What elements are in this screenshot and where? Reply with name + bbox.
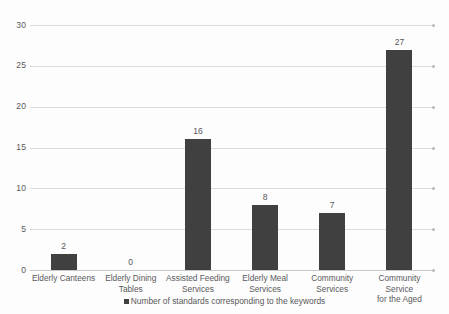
bar-value-label: 8	[232, 193, 299, 202]
bar-chart: 051015202530 20168727 Elderly CanteensEl…	[0, 0, 449, 314]
bar[interactable]	[319, 213, 345, 270]
bar-slot: 16	[164, 25, 231, 270]
x-axis-category-label: Elderly MealServices	[232, 273, 299, 294]
x-axis-category-label-line: Elderly Canteens	[30, 273, 97, 284]
y-axis-tick-label: 20	[2, 102, 26, 111]
y-axis-tick-label: 25	[2, 61, 26, 70]
y-axis-tick: 15	[0, 143, 26, 153]
y-axis-tick-label: 5	[2, 225, 26, 234]
bar[interactable]	[252, 205, 278, 270]
bars-group: 20168727	[30, 25, 433, 270]
y-axis-tick-label: 10	[2, 184, 26, 193]
y-axis-tick: 20	[0, 102, 26, 112]
legend-swatch-icon	[124, 299, 129, 304]
y-axis-tick: 25	[0, 61, 26, 71]
x-axis-category-label: Elderly DiningTables	[97, 273, 164, 294]
x-axis-category-label-line: Elderly Dining	[97, 273, 164, 284]
x-axis-category-label: Elderly Canteens	[30, 273, 97, 284]
x-axis-category-label: Assisted FeedingServices	[164, 273, 231, 294]
y-axis-tick: 0	[0, 266, 26, 276]
x-axis-category-label-line: Assisted Feeding	[164, 273, 231, 284]
x-axis-category-label-line: Services	[164, 284, 231, 295]
bar-value-label: 27	[366, 38, 433, 47]
gridline	[30, 270, 433, 271]
bar-slot: 7	[299, 25, 366, 270]
bar[interactable]	[51, 254, 77, 270]
bar-value-label: 2	[30, 242, 97, 251]
x-axis-category-label-line: Community Service	[366, 273, 433, 294]
bar-slot: 0	[97, 25, 164, 270]
y-axis-tick-label: 0	[2, 266, 26, 275]
y-axis-tick: 30	[0, 21, 26, 31]
y-axis-tick: 5	[0, 225, 26, 235]
chart-legend: Number of standards corresponding to the…	[0, 297, 449, 305]
y-axis-tick-label: 30	[2, 21, 26, 30]
x-axis-category-label-line: Tables	[97, 284, 164, 295]
x-axis-category-label-line: Services	[299, 284, 366, 295]
x-axis-category-label: CommunityServices	[299, 273, 366, 294]
bar-slot: 8	[232, 25, 299, 270]
x-axis-category-label-line: Services	[232, 284, 299, 295]
bar-slot: 2	[30, 25, 97, 270]
bar-slot: 27	[366, 25, 433, 270]
y-axis-tick: 10	[0, 184, 26, 194]
bar-value-label: 16	[164, 127, 231, 136]
x-axis-category-label-line: Community	[299, 273, 366, 284]
bar-value-label: 7	[299, 201, 366, 210]
y-axis-tick-label: 15	[2, 143, 26, 152]
bar[interactable]	[386, 50, 412, 271]
bar[interactable]	[185, 139, 211, 270]
legend-label: Number of standards corresponding to the…	[131, 297, 326, 305]
bar-value-label: 0	[97, 258, 164, 267]
x-axis-category-label-line: Elderly Meal	[232, 273, 299, 284]
